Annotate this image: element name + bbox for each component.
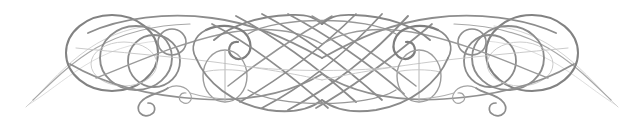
ornament-figure: Calligraphic Flourish Divider Symmetric … (0, 0, 644, 125)
canvas-background (0, 0, 644, 125)
calligraphic-ornament-graphic (0, 0, 644, 125)
